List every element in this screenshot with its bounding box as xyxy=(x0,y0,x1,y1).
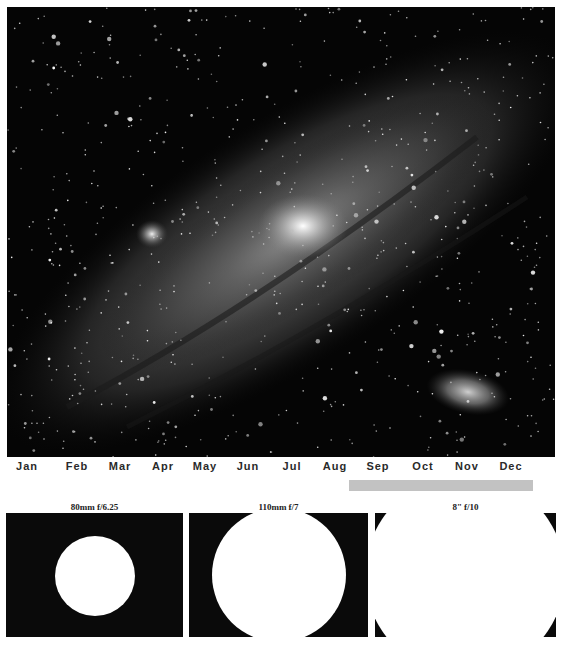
visibility-bar xyxy=(349,480,533,491)
galaxy-photo xyxy=(7,7,555,457)
fov-panel-110mm xyxy=(189,513,368,637)
fov-panel-80mm xyxy=(6,513,183,637)
month-label: Feb xyxy=(66,460,89,472)
galaxy-image xyxy=(7,7,555,457)
field-of-view-circle xyxy=(212,513,346,637)
month-label: Mar xyxy=(109,460,132,472)
panel-label-110mm: 110mm f/7 xyxy=(258,502,298,512)
month-label: Jan xyxy=(16,460,38,472)
field-of-view-circle xyxy=(375,513,556,637)
panel-label-80mm: 80mm f/6.25 xyxy=(71,502,119,512)
month-label: Oct xyxy=(412,460,433,472)
month-label: Jul xyxy=(283,460,302,472)
month-label: Nov xyxy=(455,460,479,472)
month-axis: Jan Feb Mar Apr May Jun Jul Aug Sep Oct … xyxy=(0,460,563,478)
m32 xyxy=(136,220,168,248)
month-label: Aug xyxy=(323,460,347,472)
fov-panel-8inch xyxy=(375,513,556,637)
month-label: May xyxy=(193,460,217,472)
month-label: Sep xyxy=(366,460,389,472)
month-label: Jun xyxy=(237,460,260,472)
panel-label-8inch: 8" f/10 xyxy=(452,502,478,512)
month-label: Apr xyxy=(152,460,174,472)
month-label: Dec xyxy=(499,460,522,472)
field-of-view-circle xyxy=(55,536,135,616)
